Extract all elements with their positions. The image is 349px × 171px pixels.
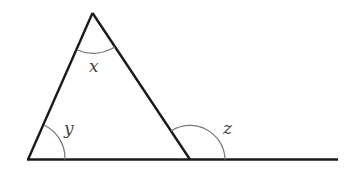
triangle-left-side xyxy=(28,13,93,160)
diagram-canvas: x y z xyxy=(0,0,349,171)
angle-label-x: x xyxy=(89,56,99,76)
triangle-diagram: x y z xyxy=(0,0,349,171)
angle-arc-x xyxy=(77,47,115,53)
angle-label-y: y xyxy=(63,118,74,138)
triangle-right-side xyxy=(93,13,191,160)
angle-label-z: z xyxy=(222,118,233,138)
angle-arc-y xyxy=(44,125,65,160)
